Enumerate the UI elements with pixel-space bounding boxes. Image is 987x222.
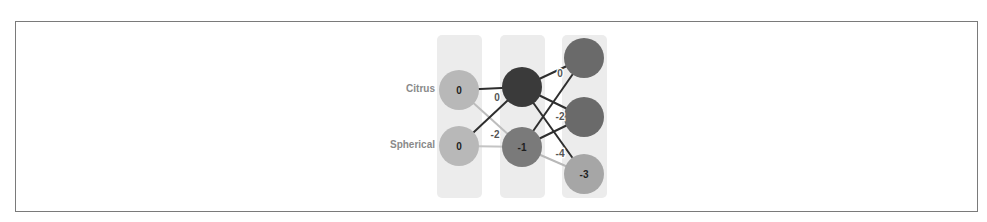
input-node-1-value: 0 [456, 85, 462, 96]
edge-weight-label: -2 [491, 129, 500, 140]
output-node-2 [564, 97, 604, 137]
edge-weight-label: 0 [494, 92, 500, 103]
input-label-spherical: Spherical [355, 139, 435, 150]
edge-weight-label: 0 [557, 68, 563, 79]
hidden-node-2-value: -1 [518, 142, 527, 153]
output-node-1 [564, 38, 604, 78]
hidden-node-1 [502, 67, 542, 107]
edge-weight-label: -4 [556, 148, 565, 159]
input-node-2-value: 0 [456, 141, 462, 152]
output-node-3-value: -3 [580, 169, 589, 180]
neural-network-diagram: 00-1-3 0-20-2-4 [0, 0, 987, 222]
input-label-citrus: Citrus [355, 83, 435, 94]
hidden-layer-band [500, 35, 545, 198]
input-layer-band [437, 35, 482, 198]
edge-weight-label: -2 [556, 111, 565, 122]
